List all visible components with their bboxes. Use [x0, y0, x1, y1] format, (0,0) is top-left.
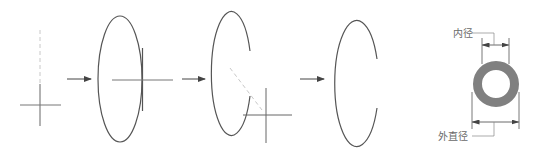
step-1-figure: [20, 30, 61, 126]
diagram-canvas: 内径 外直径: [0, 0, 534, 152]
step-2-figure: [98, 16, 173, 142]
open-ellipse-outline: [335, 21, 377, 147]
open-ellipse-outline: [211, 12, 250, 136]
ring-figure: 内径 外直径: [438, 27, 519, 142]
ellipse-outline: [98, 16, 142, 142]
dashed-diagonal-line: [230, 68, 262, 110]
ring-annulus: [478, 66, 515, 103]
step-3-figure: [211, 12, 292, 144]
outer-diameter-label: 外直径: [438, 130, 468, 142]
step-4-figure: [335, 21, 377, 147]
inner-diameter-label: 内径: [453, 27, 473, 39]
outer-leader-line: [472, 122, 494, 136]
inner-leader-line: [472, 33, 494, 45]
